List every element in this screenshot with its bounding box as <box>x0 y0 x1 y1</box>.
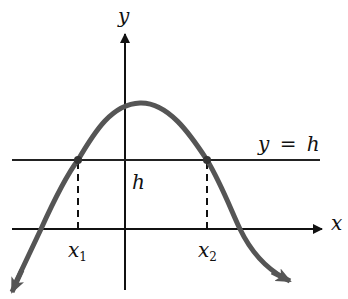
x2-label: x2 <box>198 240 217 263</box>
h-label: h <box>132 172 145 192</box>
curve-arrow-left <box>12 270 22 292</box>
intersection-point-x2 <box>203 156 211 164</box>
y-axis-label: y <box>118 6 129 26</box>
x2-base: x <box>198 238 209 262</box>
x2-subscript: 2 <box>209 250 217 264</box>
x-axis-label: x <box>331 213 342 233</box>
line-label-y-equals-h: y = h <box>258 134 322 154</box>
function-curve <box>16 103 284 282</box>
x1-label: x1 <box>68 240 87 263</box>
diagram-canvas: y x y = h h x1 x2 <box>0 0 348 299</box>
x1-subscript: 1 <box>79 250 87 264</box>
intersection-point-x1 <box>74 156 82 164</box>
x1-base: x <box>68 238 79 262</box>
